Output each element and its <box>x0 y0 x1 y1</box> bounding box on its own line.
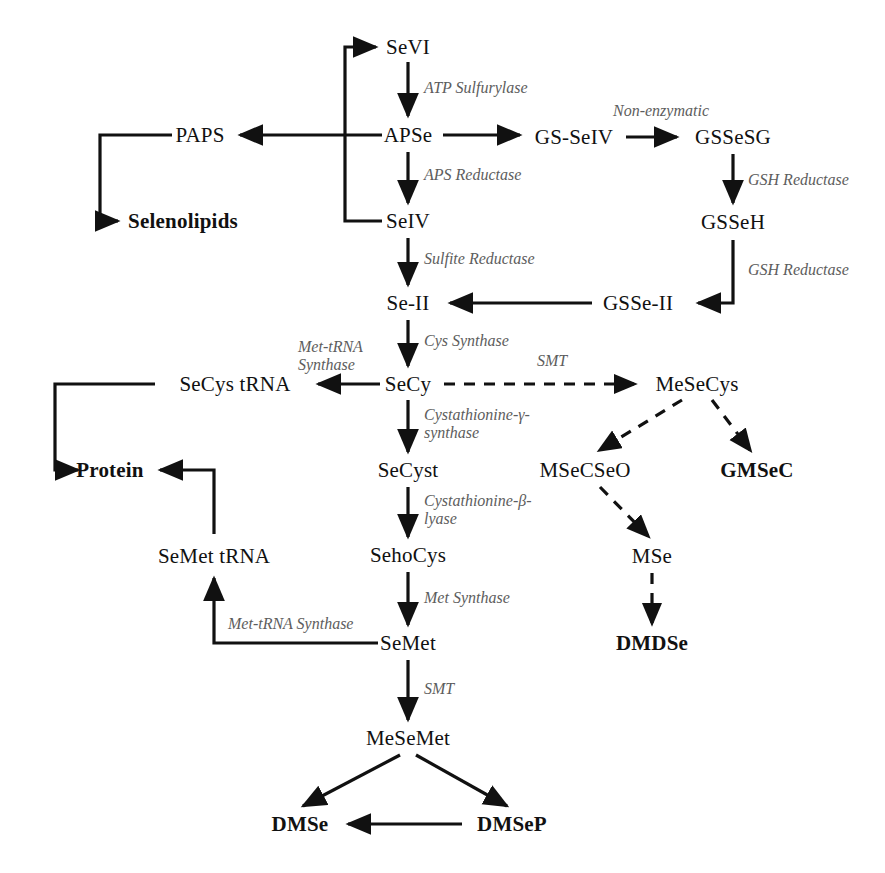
enzyme-label-smt-semet: SMT <box>424 680 454 698</box>
node-seiv[interactable]: SeIV <box>386 210 430 232</box>
node-semet[interactable]: SeMet <box>380 632 436 654</box>
node-dmsep[interactable]: DMSeP <box>477 813 547 835</box>
enzyme-label-met-synthase: Met Synthase <box>424 589 510 607</box>
edge-mesecys-msecseo <box>600 400 682 450</box>
edge-mesemet-dmse <box>303 755 400 806</box>
edge-semettrna-protein <box>160 470 214 534</box>
node-apse[interactable]: APSe <box>384 124 433 146</box>
pathway-diagram: SeVI APSe SeIV Se-II SeCy SeCyst SehoCys… <box>0 0 885 873</box>
node-protein[interactable]: Protein <box>76 459 144 481</box>
node-gssesg[interactable]: GSSeSG <box>695 126 771 148</box>
node-mesecys[interactable]: MeSeCys <box>655 373 738 395</box>
node-paps[interactable]: PAPS <box>175 124 224 146</box>
node-secyst[interactable]: SeCyst <box>378 459 439 481</box>
node-selenolipids[interactable]: Selenolipids <box>128 210 238 232</box>
node-gsse-ii[interactable]: GSSe-II <box>603 292 673 314</box>
node-se-ii[interactable]: Se-II <box>387 292 430 314</box>
edge-semet-semettrna <box>214 578 378 643</box>
node-mse[interactable]: MSe <box>632 545 672 567</box>
node-sehocys[interactable]: SehoCys <box>370 544 446 566</box>
edge-mesemet-dmsep <box>416 755 507 806</box>
node-msecseo[interactable]: MSeCSeO <box>539 459 630 481</box>
enzyme-label-met-trna-synthase-1: Met-tRNA Synthase <box>298 338 363 374</box>
enzyme-label-cys-synthase: Cys Synthase <box>424 332 509 350</box>
enzyme-label-aps-reductase: APS Reductase <box>424 166 521 184</box>
enzyme-label-atp-sulfurylase: ATP Sulfurylase <box>424 79 528 97</box>
edge-msecseo-mse <box>600 487 648 536</box>
enzyme-label-met-trna-synthase-2: Met-tRNA Synthase <box>228 615 353 633</box>
edge-gsseh-gsse2 <box>698 240 733 303</box>
node-gmsec[interactable]: GMSeC <box>720 459 793 481</box>
enzyme-label-non-enzymatic: Non-enzymatic <box>613 102 709 120</box>
node-sevi[interactable]: SeVI <box>386 36 430 58</box>
enzyme-label-sulfite-reductase: Sulfite Reductase <box>424 250 535 268</box>
edge-mesecys-gmsec <box>712 400 750 450</box>
node-semet-trna[interactable]: SeMet tRNA <box>158 545 270 567</box>
node-mesemet[interactable]: MeSeMet <box>366 727 450 749</box>
node-dmdse[interactable]: DMDSe <box>616 632 688 654</box>
enzyme-label-cystathionine-gamma-synthase: Cystathionine-γ- synthase <box>424 406 530 442</box>
enzyme-label-smt-secy: SMT <box>537 352 567 370</box>
enzyme-label-gsh-reductase-1: GSH Reductase <box>748 171 849 189</box>
node-secy[interactable]: SeCy <box>385 373 431 395</box>
node-dmse[interactable]: DMSe <box>272 813 329 835</box>
node-secys-trna[interactable]: SeCys tRNA <box>179 373 290 395</box>
node-gsseh[interactable]: GSSeH <box>701 211 765 233</box>
enzyme-label-gsh-reductase-2: GSH Reductase <box>748 261 849 279</box>
node-gs-seiv[interactable]: GS-SeIV <box>535 126 613 148</box>
enzyme-label-cystathionine-beta-lyase: Cystathionine-β- lyase <box>424 492 532 528</box>
